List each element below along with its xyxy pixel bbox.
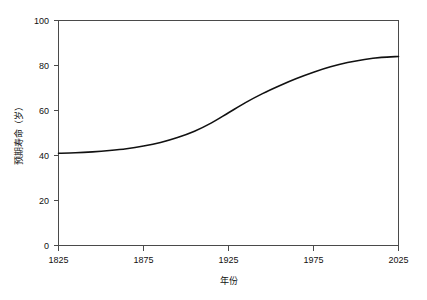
x-tick-label: 1875: [133, 255, 153, 265]
x-tick-label: 1975: [303, 255, 323, 265]
life-expectancy-chart: 100 80 60 40 20 0 1825 1875 1925 1975 20…: [0, 0, 427, 300]
y-tick-label: 20: [39, 196, 49, 206]
y-tick-label: 80: [39, 61, 49, 71]
data-series-group: [59, 57, 399, 154]
y-axis-ticks: [54, 21, 59, 246]
chart-svg: 100 80 60 40 20 0 1825 1875 1925 1975 20…: [0, 0, 427, 300]
x-tick-label: 1825: [48, 255, 68, 265]
y-tick-label: 0: [44, 241, 49, 251]
x-tick-label: 1925: [218, 255, 238, 265]
y-axis-title: 预期寿命（岁）: [13, 102, 24, 165]
plot-frame: [59, 21, 399, 246]
x-tick-label: 2025: [388, 255, 408, 265]
y-axis-tick-labels: 100 80 60 40 20 0: [34, 16, 49, 251]
y-tick-label: 40: [39, 151, 49, 161]
life-expectancy-curve: [59, 57, 399, 154]
x-axis-ticks: [59, 246, 399, 251]
x-axis-title: 年份: [220, 275, 238, 286]
x-axis-tick-labels: 1825 1875 1925 1975 2025: [48, 255, 408, 265]
y-tick-label: 60: [39, 106, 49, 116]
y-tick-label: 100: [34, 16, 49, 26]
